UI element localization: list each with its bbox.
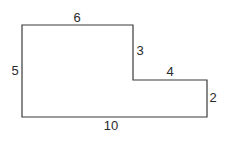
label-step-horizontal-side: 4 [166,64,173,79]
l-shaped-figure-diagram: 6 3 4 2 10 5 [0,0,226,143]
label-bottom-side: 10 [104,118,118,133]
label-step-vertical-side: 3 [136,43,143,58]
label-top-side: 6 [73,10,80,25]
label-right-side: 2 [209,90,216,105]
label-left-side: 5 [11,63,18,78]
composite-shape-outline [22,25,207,117]
